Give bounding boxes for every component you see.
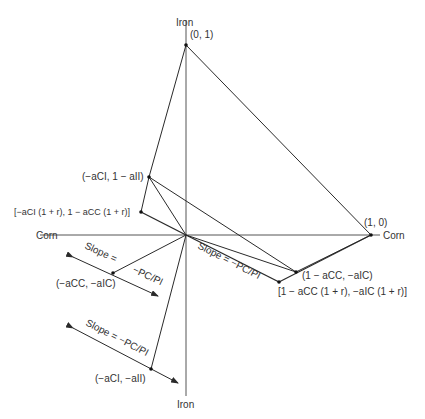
slope-label-mid-b: −PC/PI bbox=[131, 264, 165, 287]
point-right bbox=[369, 233, 373, 237]
label-point-upper-left-r: [−aCI (1 + r), 1 − aCC (1 + r)] bbox=[14, 207, 130, 217]
point-lower-right-r bbox=[277, 280, 281, 284]
point-bottom-left bbox=[149, 367, 153, 371]
edge-top-right bbox=[186, 45, 371, 235]
diagram-svg: Iron Iron Corn Corn (0, 1) (1, 0) (−aCI,… bbox=[0, 0, 425, 419]
label-point-lower-right-r: [1 − aCC (1 + r), −aIC (1 + r)] bbox=[278, 286, 407, 297]
point-top bbox=[184, 43, 188, 47]
line-origin-bottomleft bbox=[151, 235, 186, 369]
edge-top-upperleft bbox=[149, 45, 186, 177]
slope-label-right: Slope = −PC/PI bbox=[196, 240, 262, 281]
label-point-right: (1, 0) bbox=[364, 217, 387, 228]
label-point-bottom-left: (−aCI, −aII) bbox=[95, 373, 146, 384]
point-mid-left bbox=[111, 271, 115, 275]
label-point-lower-right: (1 − aCC, −aIC) bbox=[302, 270, 373, 281]
label-point-top: (0, 1) bbox=[190, 29, 213, 40]
axis-label-corn-right: Corn bbox=[383, 230, 405, 241]
point-lower-right bbox=[294, 270, 298, 274]
label-point-upper-left: (−aCI, 1 − aII) bbox=[82, 171, 144, 182]
line-origin-midleft bbox=[113, 235, 186, 273]
axis-label-iron-bottom: Iron bbox=[177, 399, 194, 410]
point-upper-left-r bbox=[139, 210, 143, 214]
point-upper-left bbox=[147, 175, 151, 179]
edge-upperleft-upperleftr bbox=[141, 177, 149, 212]
axis-label-iron-top: Iron bbox=[176, 17, 193, 28]
axis-label-corn-left: Corn bbox=[36, 230, 58, 241]
slope-label-mid-a: Slope = bbox=[83, 240, 119, 264]
label-point-mid-left: (−aCC, −aIC) bbox=[56, 278, 115, 289]
slope-label-bottom: Slope = −PC/PI bbox=[84, 317, 150, 358]
diagram-canvas: Iron Iron Corn Corn (0, 1) (1, 0) (−aCI,… bbox=[0, 0, 425, 419]
